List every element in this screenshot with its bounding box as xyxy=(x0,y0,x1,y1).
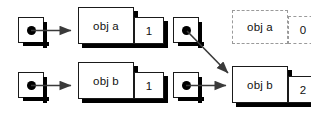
object-refcount-value: 2 xyxy=(288,76,311,103)
pointer-box-right-bottom[interactable] xyxy=(173,72,199,98)
object-count-shadow-bottom xyxy=(138,44,168,48)
object-name-shadow-bottom xyxy=(82,44,138,48)
object-refcount-value: 0 xyxy=(288,16,311,44)
pointer-dot-icon xyxy=(27,26,36,35)
object-name-shadow-bottom xyxy=(82,99,138,103)
object-name-label: obj a xyxy=(232,10,288,44)
pointer-box-shadow-bottom xyxy=(178,97,204,101)
object-name-shadow-bottom xyxy=(236,103,292,107)
pointer-box-shadow-bottom xyxy=(178,42,204,46)
pointer-box-shadow-bottom xyxy=(23,97,49,101)
pointer-dot-icon xyxy=(27,81,36,90)
object-count-shadow-bottom xyxy=(138,99,168,103)
object-count-shadow-bottom xyxy=(292,103,311,107)
pointer-box-right-top[interactable] xyxy=(173,17,199,43)
object-name-label: obj b xyxy=(78,62,134,99)
pointer-box-left-bottom[interactable] xyxy=(18,72,44,98)
object-refcount-value: 1 xyxy=(134,17,164,44)
diagram-canvas: obj a 1 obj b 1 obj a 0 obj xyxy=(0,0,311,117)
pointer-box-left-top[interactable] xyxy=(18,17,44,43)
pointer-box-shadow-bottom xyxy=(23,42,49,46)
object-refcount-value: 1 xyxy=(134,72,164,99)
pointer-dot-icon xyxy=(182,26,191,35)
pointer-dot-icon xyxy=(182,81,191,90)
object-name-label: obj b xyxy=(232,66,288,103)
object-name-label: obj a xyxy=(78,7,134,44)
